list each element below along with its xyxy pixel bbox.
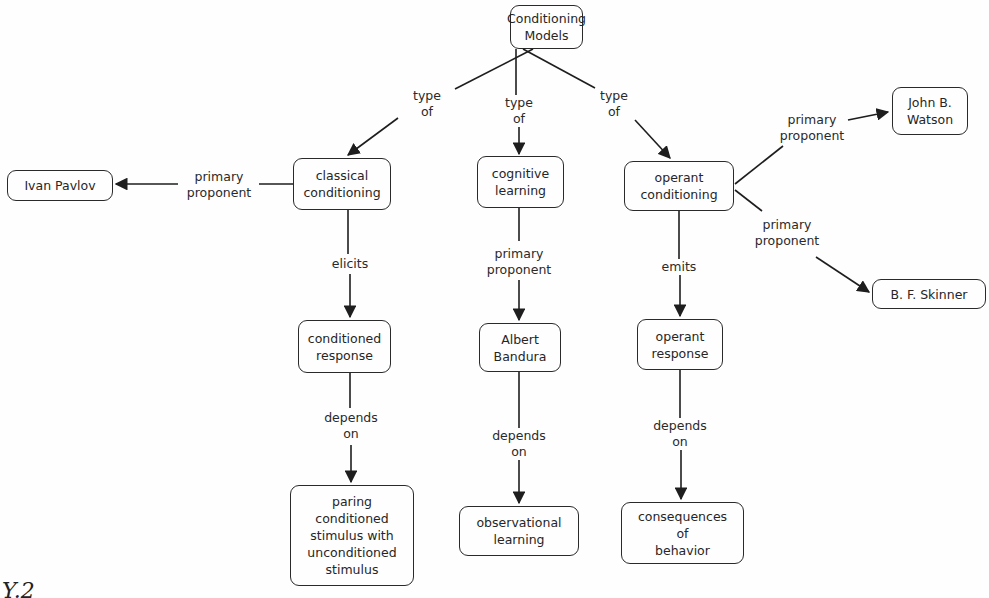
connector-operant-to-proponent-watson xyxy=(735,146,783,184)
connector-operant-to-proponent-skinner xyxy=(735,190,762,211)
figure-caption-fragment: Y.2 xyxy=(2,578,35,598)
link-label-elicits: elicits xyxy=(330,256,370,272)
link-label-pavlov-proponent: primary proponent xyxy=(185,169,253,201)
arrow-to-bf-skinner xyxy=(816,257,869,292)
link-label-type-of-operant: type of xyxy=(598,88,630,120)
node-bf-skinner[interactable]: B. F. Skinner xyxy=(872,279,986,309)
arrow-to-classical-conditioning xyxy=(348,118,398,155)
link-label-bandura-proponent: primary proponent xyxy=(485,246,553,278)
node-paring-stimulus[interactable]: paring conditioned stimulus with uncondi… xyxy=(290,485,414,586)
link-label-skinner-proponent: primary proponent xyxy=(753,217,821,249)
link-label-emits: emits xyxy=(660,259,699,275)
node-conditioned-response[interactable]: conditioned response xyxy=(298,320,391,373)
link-label-watson-proponent: primary proponent xyxy=(778,112,846,144)
node-operant-conditioning[interactable]: operant conditioning xyxy=(624,161,734,211)
node-john-watson[interactable]: John B. Watson xyxy=(892,87,968,135)
node-observational-learning[interactable]: observational learning xyxy=(459,506,579,556)
node-classical-conditioning[interactable]: classical conditioning xyxy=(293,158,391,210)
connector-root-to-type-of-1 xyxy=(455,49,533,89)
link-label-depends-on-operant: depends on xyxy=(651,418,709,450)
node-consequences-behavior[interactable]: consequences of behavior xyxy=(621,502,744,564)
link-label-depends-on-cognitive: depends on xyxy=(490,428,548,460)
node-albert-bandura[interactable]: Albert Bandura xyxy=(479,323,561,372)
connector-root-to-type-of-3 xyxy=(523,49,595,88)
node-ivan-pavlov[interactable]: Ivan Pavlov xyxy=(7,170,113,201)
link-label-type-of-classical: type of xyxy=(411,88,443,120)
arrow-to-operant-conditioning xyxy=(635,120,670,158)
node-operant-response[interactable]: operant response xyxy=(637,319,723,370)
arrow-to-john-watson xyxy=(848,112,888,120)
node-cognitive-learning[interactable]: cognitive learning xyxy=(477,156,564,208)
node-conditioning-models[interactable]: Conditioning Models xyxy=(510,5,583,49)
link-label-depends-on-classical: depends on xyxy=(322,410,380,442)
link-label-type-of-cognitive: type of xyxy=(503,95,535,127)
concept-map-canvas: Conditioning Models classical conditioni… xyxy=(0,0,989,598)
